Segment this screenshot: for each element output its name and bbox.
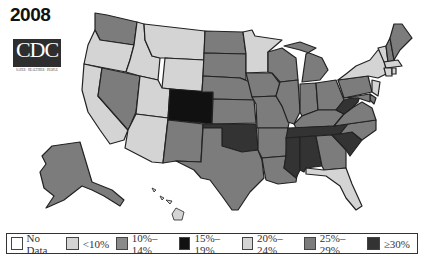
state-ND: [204, 31, 246, 54]
state-CT: [384, 68, 392, 76]
state-DE: [370, 94, 376, 104]
state-WY: [162, 58, 204, 92]
state-MT: [144, 24, 205, 60]
legend-swatch-25-29: [304, 237, 316, 250]
state-KS: [212, 99, 256, 124]
legend-swatch-15-19: [179, 237, 191, 250]
legend-label: 25%–29%: [320, 232, 360, 256]
legend-swatch-10-14: [116, 237, 128, 250]
state-NJ: [372, 80, 380, 96]
us-choropleth-map: [0, 0, 426, 232]
legend-item-15-19: 15%–19%: [179, 232, 235, 256]
legend-item-ge30: ≥30%: [367, 237, 410, 250]
legend-swatch-ge30: [367, 237, 380, 250]
legend-label: 10%–14%: [132, 232, 172, 256]
state-AK: [40, 142, 124, 208]
legend-swatch-no-data: [11, 237, 23, 250]
state-HI: [152, 188, 184, 220]
legend-item-10-14: 10%–14%: [116, 232, 172, 256]
legend-swatch-20-24: [242, 237, 254, 250]
state-NY: [338, 50, 386, 80]
legend-label: 15%–19%: [194, 232, 234, 256]
state-ME: [390, 24, 412, 60]
legend-item-lt10: <10%: [66, 237, 109, 250]
legend-label: ≥30%: [384, 238, 410, 250]
state-AR: [258, 128, 288, 158]
map-legend: No Data <10% 10%–14% 15%–19% 20%–24% 25%…: [6, 233, 418, 254]
legend-item-25-29: 25%–29%: [304, 232, 360, 256]
state-CO: [168, 89, 213, 124]
state-NM: [163, 120, 203, 163]
legend-label: <10%: [83, 238, 109, 250]
legend-item-no-data: No Data: [11, 232, 59, 256]
legend-swatch-lt10: [66, 237, 79, 250]
legend-item-20-24: 20%–24%: [242, 232, 298, 256]
state-RI: [392, 68, 396, 74]
state-MA: [384, 60, 402, 68]
state-FL: [306, 168, 362, 210]
legend-label: 20%–24%: [257, 232, 297, 256]
legend-label: No Data: [27, 232, 59, 256]
